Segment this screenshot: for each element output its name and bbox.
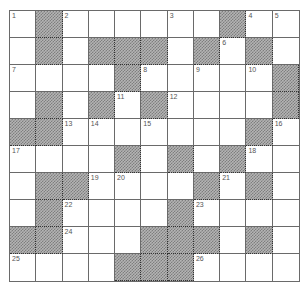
clue-number: 16 — [275, 120, 283, 127]
shaded-block — [194, 173, 220, 200]
answer-cell[interactable] — [36, 146, 62, 173]
answer-cell[interactable]: 2 — [63, 11, 89, 38]
answer-cell[interactable]: 23 — [194, 200, 220, 227]
answer-cell[interactable]: 4 — [246, 11, 272, 38]
answer-cell[interactable] — [36, 254, 62, 281]
answer-cell[interactable] — [220, 65, 246, 92]
answer-cell[interactable]: 24 — [63, 227, 89, 254]
clue-number: 1 — [12, 12, 16, 19]
answer-cell[interactable] — [141, 11, 167, 38]
answer-cell[interactable] — [220, 227, 246, 254]
answer-cell[interactable]: 5 — [273, 11, 299, 38]
answer-cell[interactable] — [220, 254, 246, 281]
answer-cell[interactable] — [141, 146, 167, 173]
answer-cell[interactable] — [141, 200, 167, 227]
answer-cell[interactable] — [89, 65, 115, 92]
answer-cell[interactable] — [10, 92, 36, 119]
answer-cell[interactable] — [273, 227, 299, 254]
answer-cell[interactable]: 7 — [10, 65, 36, 92]
answer-cell[interactable] — [89, 146, 115, 173]
shaded-block — [141, 227, 167, 254]
answer-cell[interactable] — [115, 227, 141, 254]
clue-number: 11 — [117, 93, 124, 100]
shaded-block — [115, 254, 141, 281]
answer-cell[interactable] — [36, 65, 62, 92]
answer-cell[interactable] — [63, 254, 89, 281]
answer-cell[interactable] — [273, 254, 299, 281]
answer-cell[interactable] — [10, 173, 36, 200]
answer-cell[interactable] — [273, 173, 299, 200]
clue-number: 17 — [12, 147, 20, 154]
answer-cell[interactable]: 13 — [63, 119, 89, 146]
answer-cell[interactable]: 3 — [168, 11, 194, 38]
answer-cell[interactable] — [194, 11, 220, 38]
answer-cell[interactable] — [63, 92, 89, 119]
answer-cell[interactable] — [63, 38, 89, 65]
answer-cell[interactable] — [168, 38, 194, 65]
answer-cell[interactable]: 25 — [10, 254, 36, 281]
clue-number: 2 — [65, 12, 69, 19]
shaded-block — [115, 146, 141, 173]
answer-cell[interactable]: 21 — [220, 173, 246, 200]
answer-cell[interactable] — [89, 200, 115, 227]
answer-cell[interactable]: 19 — [89, 173, 115, 200]
answer-cell[interactable] — [194, 92, 220, 119]
clue-number: 26 — [196, 255, 204, 262]
answer-cell[interactable]: 11 — [115, 92, 141, 119]
clue-number: 6 — [222, 39, 226, 46]
answer-cell[interactable] — [115, 119, 141, 146]
answer-cell[interactable]: 6 — [220, 38, 246, 65]
answer-cell[interactable]: 15 — [141, 119, 167, 146]
answer-cell[interactable] — [89, 227, 115, 254]
shaded-block — [89, 38, 115, 65]
shaded-block — [273, 92, 299, 119]
answer-cell[interactable]: 9 — [194, 65, 220, 92]
answer-cell[interactable] — [273, 146, 299, 173]
answer-cell[interactable] — [220, 119, 246, 146]
answer-cell[interactable] — [194, 119, 220, 146]
answer-cell[interactable]: 20 — [115, 173, 141, 200]
answer-cell[interactable] — [63, 146, 89, 173]
answer-cell[interactable]: 16 — [273, 119, 299, 146]
answer-cell[interactable]: 17 — [10, 146, 36, 173]
shaded-block — [63, 173, 89, 200]
answer-cell[interactable]: 22 — [63, 200, 89, 227]
answer-cell[interactable] — [115, 200, 141, 227]
clue-number: 5 — [275, 12, 279, 19]
answer-cell[interactable]: 10 — [246, 65, 272, 92]
answer-cell[interactable] — [273, 38, 299, 65]
shaded-block — [168, 146, 194, 173]
answer-cell[interactable]: 26 — [194, 254, 220, 281]
clue-number: 22 — [65, 201, 73, 208]
clue-number: 14 — [91, 120, 99, 127]
answer-cell[interactable] — [246, 254, 272, 281]
shaded-block — [246, 227, 272, 254]
answer-cell[interactable] — [220, 92, 246, 119]
answer-cell[interactable] — [168, 119, 194, 146]
answer-cell[interactable] — [10, 200, 36, 227]
clue-number: 18 — [248, 147, 256, 154]
answer-cell[interactable]: 12 — [168, 92, 194, 119]
answer-cell[interactable]: 18 — [246, 146, 272, 173]
answer-cell[interactable] — [246, 92, 272, 119]
answer-cell[interactable]: 8 — [141, 65, 167, 92]
answer-cell[interactable] — [246, 200, 272, 227]
answer-cell[interactable]: 14 — [89, 119, 115, 146]
crossword-grid: 1234567891011121314151617181920212223242… — [9, 10, 300, 282]
shaded-block — [168, 227, 194, 254]
answer-cell[interactable] — [141, 173, 167, 200]
answer-cell[interactable]: 1 — [10, 11, 36, 38]
answer-cell[interactable] — [63, 65, 89, 92]
answer-cell[interactable] — [168, 173, 194, 200]
answer-cell[interactable] — [273, 200, 299, 227]
answer-cell[interactable] — [220, 200, 246, 227]
answer-cell[interactable] — [89, 254, 115, 281]
answer-cell[interactable] — [115, 11, 141, 38]
shaded-block — [36, 119, 62, 146]
clue-number: 4 — [248, 12, 252, 19]
shaded-block — [36, 92, 62, 119]
answer-cell[interactable] — [89, 11, 115, 38]
answer-cell[interactable] — [10, 38, 36, 65]
answer-cell[interactable] — [168, 65, 194, 92]
answer-cell[interactable] — [194, 146, 220, 173]
